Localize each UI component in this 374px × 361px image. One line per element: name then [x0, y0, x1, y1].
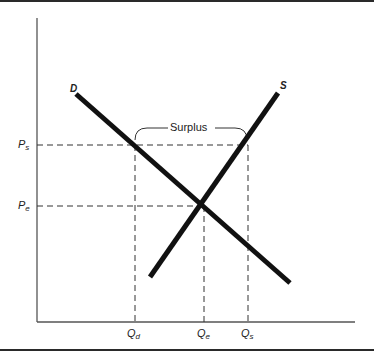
demand-label: D [70, 83, 77, 94]
pe-label: Pe [18, 200, 30, 213]
supply-demand-diagram [0, 0, 374, 361]
surplus-label: Surplus [168, 121, 209, 133]
pe-label-sub: e [25, 204, 29, 213]
qs-label: Qs [241, 328, 254, 341]
qs-label-main: Q [241, 327, 250, 339]
qd-label: Qd [127, 328, 140, 341]
ps-label: Ps [18, 139, 29, 152]
supply-label: S [280, 80, 287, 91]
qe-label: Qe [197, 328, 210, 341]
qd-label-main: Q [127, 327, 136, 339]
qe-label-sub: e [206, 332, 210, 341]
ps-label-sub: s [25, 143, 29, 152]
qe-label-main: Q [197, 327, 206, 339]
qd-label-sub: d [136, 332, 140, 341]
qs-label-sub: s [250, 332, 254, 341]
